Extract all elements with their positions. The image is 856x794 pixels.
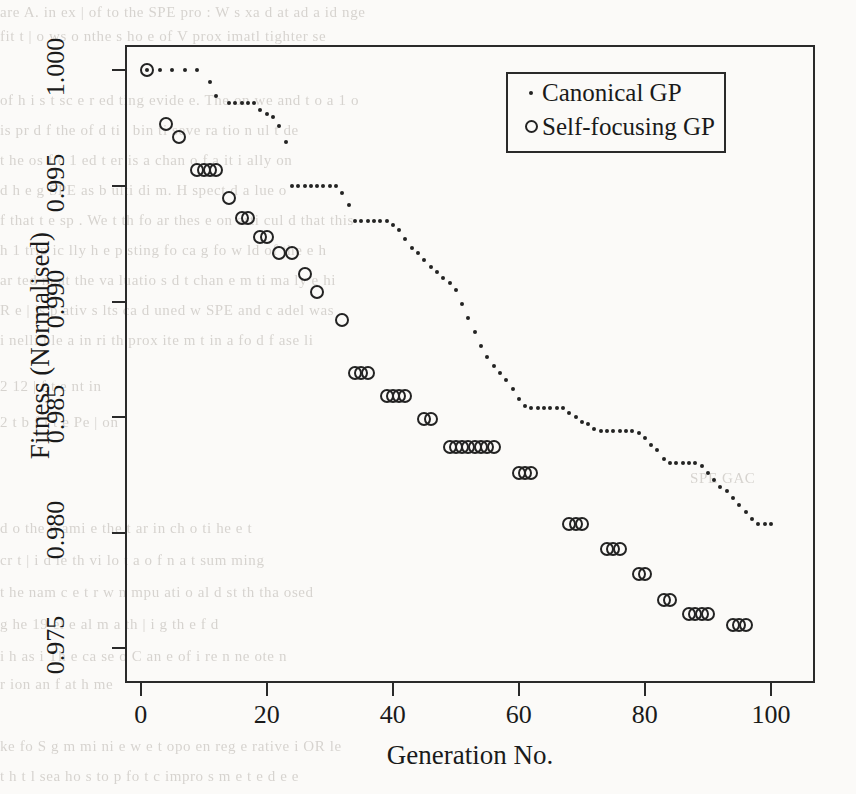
data-point-canonical-gp — [372, 219, 376, 223]
data-point-canonical-gp — [763, 522, 767, 526]
data-point-self-focusing-gp — [209, 163, 223, 177]
x-tick-label-100: 100 — [736, 700, 806, 730]
data-point-canonical-gp — [731, 496, 735, 500]
data-point-canonical-gp — [422, 258, 426, 262]
data-point-canonical-gp — [303, 184, 307, 188]
data-point-canonical-gp — [492, 364, 496, 368]
data-point-canonical-gp — [693, 461, 697, 465]
data-point-canonical-gp — [706, 471, 710, 475]
data-point-canonical-gp — [592, 427, 596, 431]
data-point-canonical-gp — [214, 94, 218, 98]
data-point-self-focusing-gp — [701, 607, 715, 621]
data-point-canonical-gp — [681, 461, 685, 465]
data-point-canonical-gp — [479, 344, 483, 348]
data-point-canonical-gp — [498, 371, 502, 375]
x-axis-title: Generation No. — [125, 740, 815, 771]
data-point-canonical-gp — [284, 140, 288, 144]
y-tick-label-0.995: 0.995 — [41, 135, 71, 231]
data-point-canonical-gp — [700, 464, 704, 468]
data-point-canonical-gp — [555, 406, 559, 410]
y-tick-0.995 — [112, 185, 125, 187]
data-point-canonical-gp — [258, 108, 262, 112]
data-point-canonical-gp — [183, 68, 187, 72]
chart-legend: Canonical GP Self-focusing GP — [506, 72, 726, 153]
data-point-self-focusing-gp — [398, 389, 412, 403]
figure-page: are A. in ex | of to the SPE pro : W s x… — [0, 0, 856, 794]
data-point-canonical-gp — [712, 478, 716, 482]
data-point-self-focusing-gp — [575, 517, 589, 531]
data-point-canonical-gp — [662, 457, 666, 461]
data-point-canonical-gp — [649, 443, 653, 447]
data-point-canonical-gp — [170, 68, 174, 72]
data-point-self-focusing-gp — [310, 285, 324, 299]
data-point-canonical-gp — [744, 510, 748, 514]
legend-label-canonical-gp: Canonical GP — [542, 80, 682, 105]
data-point-canonical-gp — [441, 276, 445, 280]
data-point-canonical-gp — [391, 223, 395, 227]
legend-item-self-focusing-gp: Self-focusing GP — [520, 114, 715, 139]
data-point-canonical-gp — [403, 237, 407, 241]
data-point-canonical-gp — [523, 404, 527, 408]
data-point-self-focusing-gp — [739, 618, 753, 632]
y-tick-label-0.990: 0.990 — [41, 251, 71, 347]
data-point-canonical-gp — [309, 184, 313, 188]
x-tick-80 — [644, 683, 646, 696]
data-point-canonical-gp — [233, 101, 237, 105]
data-point-self-focusing-gp — [613, 542, 627, 556]
data-point-canonical-gp — [718, 485, 722, 489]
data-point-canonical-gp — [208, 80, 212, 84]
x-tick-100 — [770, 683, 772, 696]
data-point-canonical-gp — [574, 415, 578, 419]
data-point-canonical-gp — [529, 406, 533, 410]
data-point-canonical-gp — [769, 522, 773, 526]
data-point-self-focusing-gp — [487, 440, 501, 454]
data-point-canonical-gp — [448, 281, 452, 285]
data-point-self-focusing-gp — [298, 267, 312, 281]
bleed-text-top-1: fit t | o ws o nthe s ho e of V prox ima… — [0, 28, 856, 45]
data-point-self-focusing-gp — [222, 191, 236, 205]
y-tick-label-1.000: 1.000 — [41, 19, 71, 115]
data-point-canonical-gp — [416, 251, 420, 255]
dot-marker-icon — [520, 91, 542, 95]
bleed-text-top-0: are A. in ex | of to the SPE pro : W s x… — [0, 4, 856, 21]
data-point-canonical-gp — [195, 68, 199, 72]
data-point-canonical-gp — [618, 429, 622, 433]
data-point-self-focusing-gp — [260, 230, 274, 244]
data-point-canonical-gp — [580, 420, 584, 424]
data-point-canonical-gp — [599, 429, 603, 433]
y-tick-0.985 — [112, 416, 125, 418]
y-tick-0.975 — [112, 647, 125, 649]
x-tick-label-0: 0 — [106, 700, 176, 730]
data-point-canonical-gp — [290, 184, 294, 188]
data-point-canonical-gp — [410, 246, 414, 250]
data-point-canonical-gp — [561, 406, 565, 410]
data-point-canonical-gp — [542, 406, 546, 410]
x-tick-label-40: 40 — [358, 700, 428, 730]
data-point-canonical-gp — [637, 431, 641, 435]
y-tick-label-0.975: 0.975 — [41, 597, 71, 693]
data-point-canonical-gp — [750, 517, 754, 521]
data-point-self-focusing-gp — [285, 246, 299, 260]
data-point-canonical-gp — [334, 184, 338, 188]
legend-label-self-focusing-gp: Self-focusing GP — [542, 114, 715, 139]
data-point-self-focusing-gp — [172, 130, 186, 144]
data-point-self-focusing-gp — [524, 466, 538, 480]
y-tick-label-0.980: 0.980 — [41, 482, 71, 578]
data-point-canonical-gp — [227, 101, 231, 105]
data-point-canonical-gp — [315, 184, 319, 188]
data-point-canonical-gp — [429, 265, 433, 269]
data-point-canonical-gp — [517, 397, 521, 401]
data-point-canonical-gp — [605, 429, 609, 433]
data-point-canonical-gp — [460, 302, 464, 306]
y-tick-0.980 — [112, 532, 125, 534]
circle-marker-icon — [520, 120, 542, 133]
data-point-canonical-gp — [548, 406, 552, 410]
data-point-canonical-gp — [485, 355, 489, 359]
y-tick-label-0.985: 0.985 — [41, 366, 71, 462]
data-point-canonical-gp — [378, 219, 382, 223]
x-tick-20 — [266, 683, 268, 696]
data-point-canonical-gp — [271, 115, 275, 119]
data-point-canonical-gp — [655, 448, 659, 452]
data-point-canonical-gp — [504, 378, 508, 382]
data-point-canonical-gp — [277, 124, 281, 128]
